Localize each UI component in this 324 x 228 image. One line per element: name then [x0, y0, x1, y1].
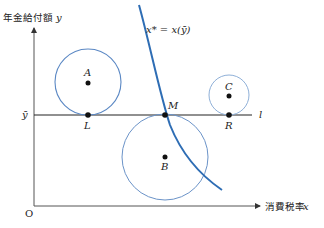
point-L-label: L — [83, 120, 91, 131]
curve-label: x* = x(ȳ) — [146, 24, 191, 35]
line-l-label: l — [259, 109, 262, 120]
point-M — [162, 112, 168, 118]
point-B — [163, 155, 168, 160]
point-R — [226, 112, 232, 118]
ybar-label: ȳ — [21, 109, 28, 120]
y-axis-label: 年金給付額 — [3, 12, 53, 23]
point-C — [227, 94, 232, 99]
point-A — [86, 81, 91, 86]
point-L — [85, 112, 91, 118]
origin-label: O — [25, 208, 33, 219]
x-axis-label: 消費税率 — [265, 201, 305, 212]
point-R-label: R — [224, 120, 233, 131]
diagram: 年金給付額 y 消費税率 x O ȳ l x* = x(ȳ) A L M B C… — [0, 0, 324, 228]
x-axis-var: x — [303, 201, 309, 212]
point-A-label: A — [83, 67, 91, 78]
point-C-label: C — [225, 81, 233, 92]
y-axis-var: y — [55, 12, 62, 23]
point-M-label: M — [167, 100, 179, 111]
point-B-label: B — [160, 161, 168, 172]
